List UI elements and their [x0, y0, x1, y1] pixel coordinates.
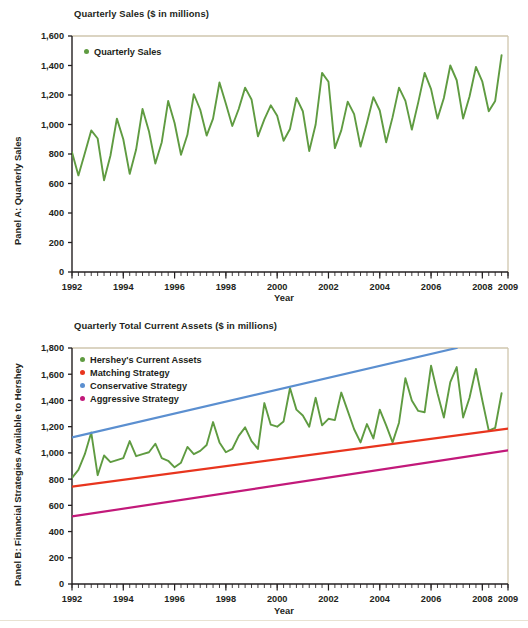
svg-text:1998: 1998: [216, 594, 236, 604]
svg-text:0: 0: [59, 267, 64, 277]
svg-text:1996: 1996: [164, 594, 184, 604]
panel-a-plot: 02004006008001,0001,2001,4001,6001992199…: [0, 0, 528, 316]
svg-text:2006: 2006: [421, 594, 441, 604]
svg-text:1,000: 1,000: [41, 120, 64, 130]
svg-text:400: 400: [49, 527, 64, 537]
svg-text:2008: 2008: [472, 282, 492, 292]
legend-item[interactable]: Conservative Strategy: [80, 379, 202, 392]
svg-text:2006: 2006: [421, 282, 441, 292]
panel-b: Quarterly Total Current Assets ($ in mil…: [0, 316, 528, 628]
figure-container: Quarterly Sales ($ in millions) Panel A:…: [0, 0, 528, 628]
svg-text:1,600: 1,600: [41, 31, 64, 41]
svg-text:1,200: 1,200: [41, 90, 64, 100]
legend-label: Aggressive Strategy: [90, 394, 179, 404]
svg-text:200: 200: [49, 238, 64, 248]
svg-text:1,400: 1,400: [41, 396, 64, 406]
svg-text:1,800: 1,800: [41, 343, 64, 353]
svg-text:0: 0: [59, 579, 64, 589]
legend-item[interactable]: Quarterly Sales: [84, 45, 161, 58]
legend-marker-icon: [80, 370, 85, 375]
svg-text:1,400: 1,400: [41, 61, 64, 71]
legend-label: Matching Strategy: [90, 368, 170, 378]
svg-text:1998: 1998: [216, 282, 236, 292]
svg-text:2004: 2004: [370, 282, 391, 292]
legend-label: Hershey's Current Assets: [90, 355, 202, 365]
bottom-divider: [0, 620, 528, 621]
legend-marker-icon: [80, 383, 85, 388]
svg-text:200: 200: [49, 553, 64, 563]
svg-text:2002: 2002: [318, 594, 338, 604]
svg-text:1,600: 1,600: [41, 370, 64, 380]
svg-text:2009: 2009: [498, 594, 518, 604]
panel-b-legend: Hershey's Current AssetsMatching Strateg…: [80, 353, 202, 405]
svg-text:2000: 2000: [267, 282, 287, 292]
svg-text:600: 600: [49, 179, 64, 189]
svg-text:2008: 2008: [472, 594, 492, 604]
svg-text:2000: 2000: [267, 594, 287, 604]
svg-text:1994: 1994: [113, 594, 134, 604]
svg-text:1992: 1992: [62, 282, 82, 292]
svg-text:600: 600: [49, 501, 64, 511]
svg-text:400: 400: [49, 208, 64, 218]
svg-text:800: 800: [49, 475, 64, 485]
legend-item[interactable]: Aggressive Strategy: [80, 392, 202, 405]
legend-label: Conservative Strategy: [90, 381, 187, 391]
svg-text:2009: 2009: [498, 282, 518, 292]
legend-item[interactable]: Matching Strategy: [80, 366, 202, 379]
panel-a-legend: Quarterly Sales: [84, 45, 161, 58]
svg-text:1994: 1994: [113, 282, 134, 292]
legend-label: Quarterly Sales: [94, 47, 161, 57]
svg-text:1,200: 1,200: [41, 422, 64, 432]
svg-text:1,000: 1,000: [41, 448, 64, 458]
legend-marker-icon: [84, 49, 89, 54]
panel-a: Quarterly Sales ($ in millions) Panel A:…: [0, 0, 528, 316]
svg-text:2004: 2004: [370, 594, 391, 604]
legend-item[interactable]: Hershey's Current Assets: [80, 353, 202, 366]
legend-marker-icon: [80, 396, 85, 401]
svg-text:800: 800: [49, 149, 64, 159]
legend-marker-icon: [80, 357, 85, 362]
svg-text:1992: 1992: [62, 594, 82, 604]
svg-text:2002: 2002: [318, 282, 338, 292]
svg-text:1996: 1996: [164, 282, 184, 292]
